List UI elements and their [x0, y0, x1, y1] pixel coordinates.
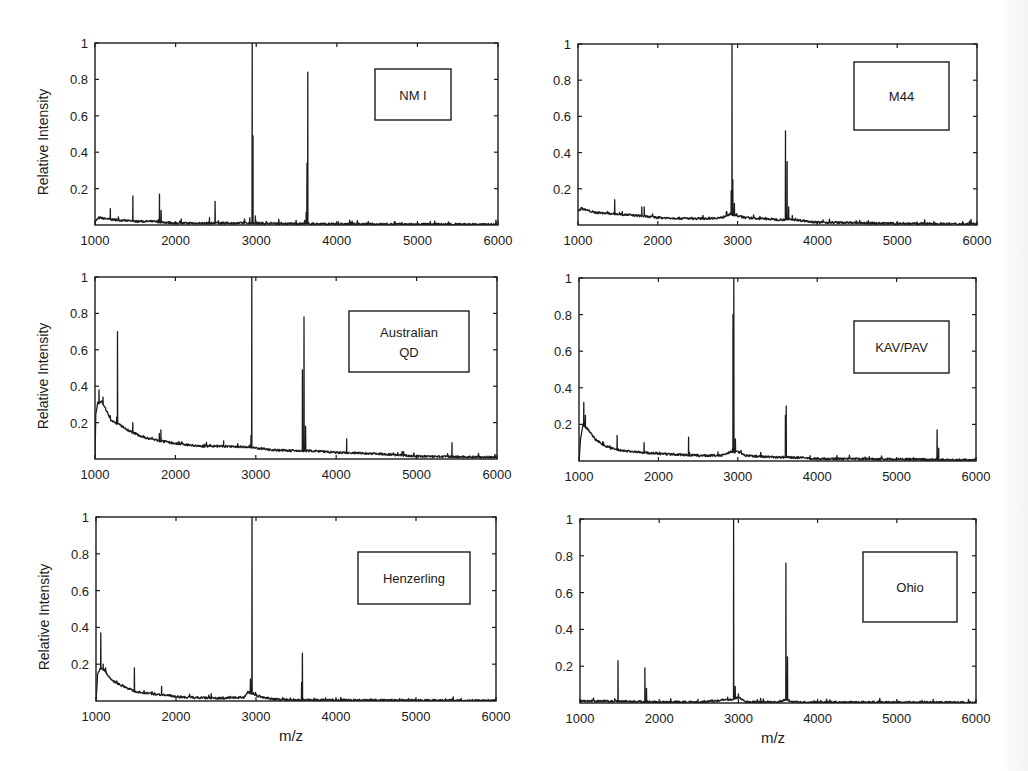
legend-label: Ohio: [896, 580, 923, 595]
y-tick-label: 0.6: [555, 586, 573, 601]
y-tick-label: 0.6: [70, 109, 88, 124]
x-tick-label: 2000: [643, 233, 672, 248]
y-tick-label: 0.4: [70, 145, 88, 160]
y-tick-label: 0.2: [554, 417, 572, 432]
y-tick-label: 0.4: [553, 146, 571, 161]
y-tick-label: 0.6: [70, 343, 88, 358]
legend-label: NM I: [399, 88, 426, 103]
x-tick-label: 1000: [565, 469, 594, 484]
x-tick-label: 5000: [403, 233, 432, 248]
x-tick-label: 5000: [402, 467, 431, 482]
y-tick-label: 0.8: [70, 306, 88, 321]
x-tick-label: 3000: [723, 469, 752, 484]
x-tick-label: 2000: [162, 709, 191, 724]
x-tick-label: 2000: [645, 711, 674, 726]
x-tick-label: 5000: [402, 709, 431, 724]
x-tick-label: 5000: [882, 469, 911, 484]
panel-middle-left: 1000200030004000500060000.20.40.60.81Rel…: [35, 270, 511, 482]
y-tick-label: 0.8: [70, 72, 88, 87]
x-axis-label: m/z: [279, 727, 303, 744]
x-tick-label: 4000: [803, 711, 832, 726]
x-tick-label: 4000: [322, 467, 351, 482]
legend-label: KAV/PAV: [875, 340, 928, 355]
x-tick-label: 3000: [242, 709, 271, 724]
x-tick-label: 3000: [242, 233, 271, 248]
y-tick-label: 0.6: [553, 109, 571, 124]
x-tick-label: 1000: [81, 233, 110, 248]
legend-label: Henzerling: [383, 571, 445, 586]
y-axis-label: Relative Intensity: [35, 89, 51, 196]
legend-label: M44: [889, 89, 914, 104]
x-tick-label: 6000: [962, 469, 991, 484]
spectra-figure: 1000200030004000500060000.20.40.60.81Rel…: [0, 0, 1028, 771]
x-tick-label: 1000: [82, 709, 111, 724]
x-tick-label: 2000: [644, 469, 673, 484]
y-tick-label: 0.8: [71, 547, 89, 562]
y-tick-label: 0.6: [554, 344, 572, 359]
x-tick-label: 6000: [484, 233, 513, 248]
panel-top-left: 1000200030004000500060000.20.40.60.81Rel…: [35, 36, 512, 248]
y-tick-label: 1: [565, 271, 572, 286]
x-tick-label: 2000: [161, 233, 190, 248]
x-tick-label: 6000: [962, 711, 991, 726]
y-tick-label: 0.8: [555, 549, 573, 564]
x-tick-label: 4000: [803, 469, 832, 484]
x-tick-label: 5000: [882, 711, 911, 726]
x-tick-label: 1000: [566, 711, 595, 726]
y-tick-label: 0.2: [70, 182, 88, 197]
y-tick-label: 0.8: [554, 308, 572, 323]
x-tick-label: 2000: [161, 467, 190, 482]
y-tick-label: 0.2: [553, 182, 571, 197]
y-tick-label: 0.4: [554, 381, 572, 396]
x-tick-label: 3000: [723, 233, 752, 248]
panel-bottom-right: 1000200030004000500060000.20.40.60.81m/z…: [555, 512, 991, 746]
panel-top-right: 1000200030004000500060000.20.40.60.81M44: [553, 37, 992, 248]
x-tick-label: 1000: [564, 233, 593, 248]
legend-label: QD: [399, 345, 419, 360]
y-tick-label: 0.2: [555, 659, 573, 674]
y-tick-label: 0.6: [71, 584, 89, 599]
y-tick-label: 0.4: [71, 620, 89, 635]
x-tick-label: 4000: [322, 709, 351, 724]
x-tick-label: 4000: [803, 233, 832, 248]
y-tick-label: 1: [566, 512, 573, 527]
panel-middle-right: 1000200030004000500060000.20.40.60.81KAV…: [554, 271, 991, 484]
x-tick-label: 6000: [482, 709, 511, 724]
y-tick-label: 1: [81, 36, 88, 51]
x-tick-label: 6000: [483, 467, 512, 482]
x-tick-label: 6000: [963, 233, 992, 248]
x-tick-label: 5000: [883, 233, 912, 248]
panel-bottom-left: 1000200030004000500060000.20.40.60.81Rel…: [36, 510, 510, 744]
spectrum-line: [96, 517, 496, 701]
y-tick-label: 0.4: [70, 379, 88, 394]
y-axis-label: Relative Intensity: [36, 564, 52, 671]
x-tick-label: 1000: [81, 467, 110, 482]
y-tick-label: 1: [81, 270, 88, 285]
y-tick-label: 1: [82, 510, 89, 525]
y-tick-label: 0.8: [553, 73, 571, 88]
x-tick-label: 3000: [724, 711, 753, 726]
x-axis-label: m/z: [761, 729, 785, 746]
y-axis-label: Relative Intensity: [35, 323, 51, 430]
legend-box: [349, 311, 469, 372]
legend-label: Australian: [380, 325, 438, 340]
y-tick-label: 1: [564, 37, 571, 52]
x-tick-label: 4000: [322, 233, 351, 248]
y-tick-label: 0.4: [555, 622, 573, 637]
x-tick-label: 3000: [241, 467, 270, 482]
axes-frame: [96, 517, 496, 701]
y-tick-label: 0.2: [71, 657, 89, 672]
y-tick-label: 0.2: [70, 416, 88, 431]
